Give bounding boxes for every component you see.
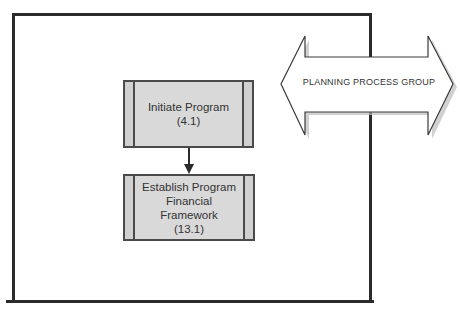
process-box-left-bar xyxy=(125,82,135,146)
arrowhead-down-icon xyxy=(184,164,194,174)
process-box-label: Initiate Program (4.1) xyxy=(136,100,241,128)
process-box-right-bar xyxy=(243,176,253,239)
process-box-label: Establish Program Financial Framework (1… xyxy=(125,180,253,236)
process-box-right-bar xyxy=(242,82,252,146)
planning-process-group-label: PLANNING PROCESS GROUP xyxy=(298,77,440,87)
diagram-connectors xyxy=(0,0,460,315)
process-box-initiate-program: Initiate Program (4.1) xyxy=(123,80,254,148)
process-box-left-bar xyxy=(125,176,135,239)
process-box-establish-financial-framework: Establish Program Financial Framework (1… xyxy=(123,174,255,241)
